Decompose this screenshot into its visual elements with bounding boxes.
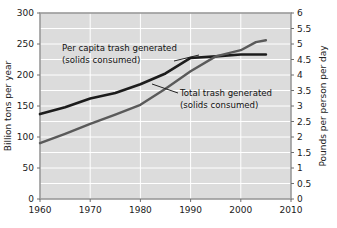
y2-tick-label: 0 <box>297 194 303 204</box>
y-tick-label: 250 <box>17 39 34 49</box>
y-tick-label: 50 <box>23 163 35 173</box>
y2-tick-label: 2 <box>297 132 303 142</box>
y-tick-label: 300 <box>17 8 34 18</box>
y-tick-label: 100 <box>17 132 34 142</box>
x-tick-label: 2000 <box>229 205 252 215</box>
x-tick-label: 1990 <box>179 205 202 215</box>
y2-tick-label: 1.5 <box>297 148 311 158</box>
y-axis-title: Billion tons per year <box>3 60 13 151</box>
y2-tick-label: 4.5 <box>297 55 311 65</box>
y-tick-label: 0 <box>28 194 34 204</box>
y2-tick-label: 3 <box>297 101 303 111</box>
y-axis-tick-labels: 050100150200250300 <box>17 8 40 204</box>
chart-figure: 196019701980199020002010 050100150200250… <box>0 0 337 228</box>
total-trash-annotation-line2: (solids consumed) <box>180 100 258 110</box>
y2-tick-label: 0.5 <box>297 179 311 189</box>
y2-tick-label: 3.5 <box>297 86 311 96</box>
y-tick-label: 200 <box>17 70 34 80</box>
x-tick-label: 1960 <box>29 205 52 215</box>
y2-axis-title: Pounds per person per day <box>318 45 328 167</box>
y2-tick-label: 1 <box>297 163 303 173</box>
trash-generation-line-chart: 196019701980199020002010 050100150200250… <box>0 0 337 228</box>
y-tick-label: 150 <box>17 101 34 111</box>
y2-tick-label: 6 <box>297 8 303 18</box>
x-tick-label: 1970 <box>79 205 102 215</box>
per-capita-annotation-line1: Per capita trash generated <box>62 43 177 53</box>
total-trash-annotation-line1: Total trash generated <box>179 88 272 98</box>
y2-tick-label: 2.5 <box>297 117 311 127</box>
x-tick-label: 2010 <box>280 205 303 215</box>
per-capita-annotation-line2: (solids consumed) <box>62 55 140 65</box>
y2-tick-label: 5 <box>297 39 303 49</box>
y2-axis-tick-labels: 00.511.522.533.544.555.56 <box>291 8 311 204</box>
x-tick-label: 1980 <box>129 205 152 215</box>
y2-tick-label: 4 <box>297 70 303 80</box>
x-axis-tick-labels: 196019701980199020002010 <box>29 199 303 215</box>
y2-tick-label: 5.5 <box>297 24 311 34</box>
